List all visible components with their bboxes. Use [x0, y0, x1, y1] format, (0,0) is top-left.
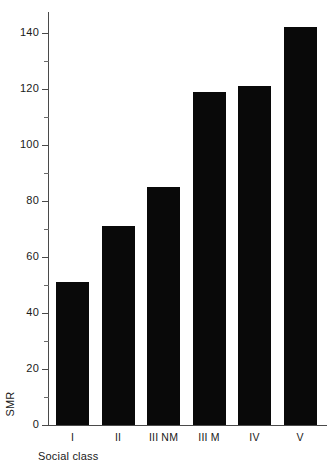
y-axis-major-tick [42, 425, 49, 426]
y-axis-major-tick [42, 369, 49, 370]
y-axis-tick-label: 20 [5, 363, 39, 374]
x-axis-title: Social class [38, 450, 98, 462]
y-axis-minor-tick [44, 117, 49, 118]
bar [284, 27, 317, 425]
y-axis-minor-tick [44, 285, 49, 286]
bar [147, 187, 180, 425]
y-axis-major-tick [42, 257, 49, 258]
y-axis-minor-tick [44, 61, 49, 62]
bar [56, 282, 89, 425]
x-axis-tick-label: II [96, 431, 141, 443]
y-axis-tick-label: 40 [5, 307, 39, 318]
y-axis-major-tick [42, 201, 49, 202]
x-axis-tick-label: I [50, 431, 95, 443]
x-axis-tick-label: V [278, 431, 323, 443]
y-axis-major-tick [42, 313, 49, 314]
x-axis-line [48, 425, 327, 426]
x-axis-tick-label: IV [232, 431, 277, 443]
y-axis-minor-tick [44, 397, 49, 398]
y-axis-tick-label: 100 [5, 139, 39, 150]
y-axis-major-tick [42, 33, 49, 34]
y-axis-tick-label: 80 [5, 195, 39, 206]
bar-chart: 020406080100120140 IIIIII NMIII MIVV SMR… [0, 0, 333, 468]
y-axis-major-tick [42, 145, 49, 146]
y-axis-major-tick [42, 89, 49, 90]
bar [193, 92, 226, 425]
y-axis-tick-label: 120 [5, 83, 39, 94]
x-axis-tick-label: III M [187, 431, 232, 443]
y-axis-line [48, 12, 49, 425]
bar [238, 86, 271, 425]
y-axis-minor-tick [44, 229, 49, 230]
y-axis-tick-label: 140 [5, 27, 39, 38]
y-axis-minor-tick [44, 173, 49, 174]
y-axis-title: SMR [4, 384, 16, 424]
x-axis-tick-label: III NM [141, 431, 186, 443]
y-axis-minor-tick [44, 341, 49, 342]
bar [102, 226, 135, 425]
y-axis-tick-label: 60 [5, 251, 39, 262]
